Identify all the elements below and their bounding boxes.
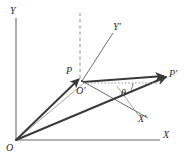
origin-label: O [6, 143, 13, 153]
y-prime-axis-label: Y' [113, 22, 121, 32]
y-axis-label: Y [10, 6, 16, 16]
rotation-diagram-figure: Y X Y' X' O O' P P' θ [0, 0, 185, 160]
point-marker-o-prime [81, 80, 83, 82]
y-prime-axis-line [82, 33, 113, 81]
point-marker-o [15, 139, 17, 141]
diagram-canvas [0, 0, 185, 160]
origin-prime-label: O' [76, 86, 85, 96]
point-p-label: P [66, 66, 72, 76]
point-marker-p-prime [165, 76, 167, 78]
x-axis-label: X [163, 130, 169, 140]
x-prime-axis-label: X' [138, 114, 146, 124]
theta-angle-label: θ [121, 88, 126, 98]
vector-o-to-p [16, 79, 79, 140]
o-to-o-prime-construction-line [16, 83, 84, 140]
theta-angle-arc [131, 83, 133, 90]
vector-o-prime-to-p-prime [83, 76, 164, 82]
point-p-prime-label: P' [169, 69, 177, 79]
